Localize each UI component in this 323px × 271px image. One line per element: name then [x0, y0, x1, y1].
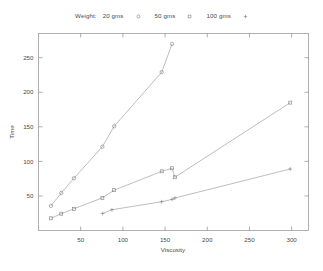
series-100-gms: [101, 167, 292, 215]
data-point: [288, 167, 292, 171]
series-50-gms: [49, 101, 291, 220]
x-tick-label: 50: [77, 236, 84, 243]
plot-frame: [39, 34, 309, 231]
y-tick-label: 100: [23, 158, 34, 165]
x-tick-label: 250: [244, 236, 255, 243]
series-line: [103, 169, 291, 214]
axis-tick-labels: 5010015020025030050100150200250: [23, 54, 297, 243]
data-point: [160, 200, 164, 204]
y-tick-label: 250: [23, 54, 34, 61]
plot-area: 5010015020025030050100150200250 Viscosit…: [0, 0, 323, 271]
data-point: [110, 208, 114, 212]
chart-container: Weight:20 gms 50 gms 100 gms 50100150200…: [0, 0, 323, 271]
data-series-layer: [49, 42, 292, 220]
series-20-gms: [49, 42, 174, 207]
series-line: [51, 44, 172, 206]
x-tick-label: 150: [160, 236, 171, 243]
series-line: [51, 103, 290, 219]
x-tick-label: 200: [202, 236, 213, 243]
y-tick-label: 150: [23, 123, 34, 130]
y-tick-label: 50: [27, 192, 34, 199]
axis-ticks: [39, 34, 309, 231]
y-axis-title: Time: [8, 125, 15, 139]
x-tick-label: 300: [286, 236, 297, 243]
x-tick-label: 100: [118, 236, 129, 243]
y-tick-label: 200: [23, 88, 34, 95]
data-point: [101, 212, 105, 216]
x-axis-title: Viscosity: [161, 246, 186, 253]
